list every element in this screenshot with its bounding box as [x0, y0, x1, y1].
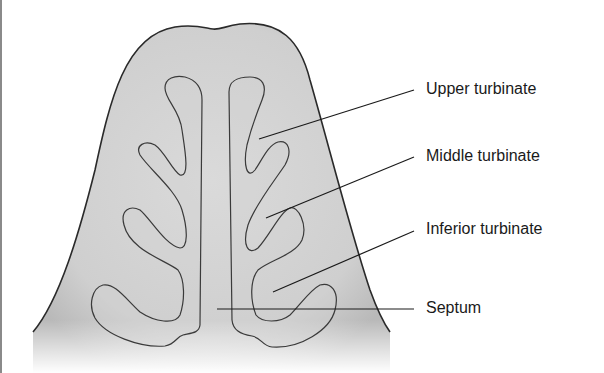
label-septum: Septum — [426, 299, 481, 317]
label-middle-turbinate: Middle turbinate — [426, 147, 540, 165]
label-inferior-turbinate: Inferior turbinate — [426, 220, 543, 238]
outer-tissue — [20, 23, 400, 373]
nasal-cavity-diagram — [0, 0, 604, 373]
label-upper-turbinate: Upper turbinate — [426, 80, 536, 98]
